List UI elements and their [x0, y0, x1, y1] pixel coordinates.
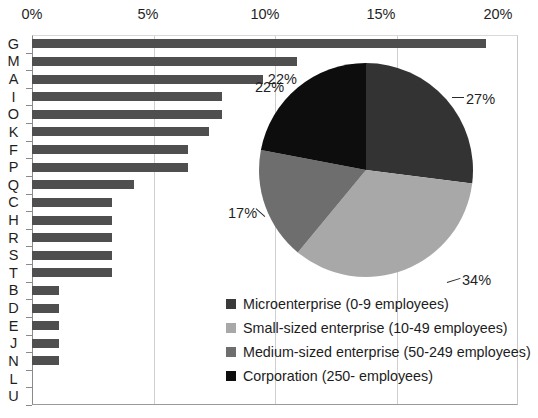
y-tick-label: I: [0, 89, 27, 105]
bar: [32, 163, 188, 172]
legend-item[interactable]: Medium-sized enterprise (50-249 employee…: [226, 340, 531, 364]
bar: [32, 286, 59, 295]
y-tick-label: J: [0, 335, 27, 351]
pie-chart: [258, 62, 474, 278]
legend-color-swatch: [226, 371, 236, 381]
legend-item[interactable]: Microenterprise (0-9 employees): [226, 292, 531, 316]
pie-value-label: 22%: [255, 79, 284, 95]
bar: [32, 339, 59, 348]
y-tick-label: Q: [0, 177, 27, 193]
bar: [32, 92, 222, 101]
y-tick-label: G: [0, 36, 27, 52]
legend-label: Corporation (250- employees): [243, 368, 433, 384]
legend-label: Small-sized enterprise (10-49 employees): [243, 320, 508, 336]
legend-label: Microenterprise (0-9 employees): [243, 296, 449, 312]
legend-color-swatch: [226, 299, 236, 309]
y-tick-label: C: [0, 194, 27, 210]
bar: [32, 304, 59, 313]
y-tick-label: R: [0, 230, 27, 246]
pie-value-label: 34%: [462, 272, 491, 288]
x-tick-label: 10%: [250, 6, 279, 22]
bar: [32, 127, 209, 136]
y-tick-label: F: [0, 142, 27, 158]
x-tick-label: 5%: [138, 6, 159, 22]
y-tick-label: B: [0, 282, 27, 298]
bar: [32, 110, 222, 119]
legend-item[interactable]: Corporation (250- employees): [226, 364, 531, 388]
bar: [32, 251, 112, 260]
chart-figure: 0%5%10%15%20% GMAIOKFPQCHRSTBDEJNLU 22% …: [0, 0, 538, 418]
y-tick-label: U: [0, 388, 27, 404]
bar: [32, 39, 486, 48]
y-tick-label: H: [0, 212, 27, 228]
y-tick-label: L: [0, 371, 27, 387]
x-tick-label: 15%: [366, 6, 395, 22]
y-axis-tickmark: [26, 405, 32, 406]
pie-slice: [366, 63, 473, 183]
y-tick-label: E: [0, 318, 27, 334]
y-tick-label: P: [0, 159, 27, 175]
bar: [32, 145, 188, 154]
y-tick-label: A: [0, 71, 27, 87]
y-tick-label: M: [0, 53, 27, 69]
pie-legend: Microenterprise (0-9 employees)Small-siz…: [226, 292, 531, 388]
pie-value-label: 27%: [466, 91, 495, 107]
legend-item[interactable]: Small-sized enterprise (10-49 employees): [226, 316, 531, 340]
bar: [32, 268, 112, 277]
bar: [32, 216, 112, 225]
y-tick-label: N: [0, 353, 27, 369]
bar: [32, 233, 112, 242]
pie-value-label: 17%: [228, 205, 257, 221]
legend-color-swatch: [226, 323, 236, 333]
bar: [32, 75, 263, 84]
y-tick-label: K: [0, 124, 27, 140]
x-tick-label: 0%: [22, 6, 43, 22]
bar: [32, 321, 59, 330]
bar: [32, 356, 59, 365]
y-tick-label: T: [0, 265, 27, 281]
bar: [32, 198, 112, 207]
legend-color-swatch: [226, 347, 236, 357]
y-tick-label: D: [0, 300, 27, 316]
pie-leader-line: [452, 97, 464, 98]
y-tick-label: S: [0, 247, 27, 263]
legend-label: Medium-sized enterprise (50-249 employee…: [243, 344, 531, 360]
bar: [32, 180, 134, 189]
pie-svg: [258, 62, 474, 278]
x-tick-label: 20%: [483, 6, 512, 22]
y-tick-label: O: [0, 106, 27, 122]
